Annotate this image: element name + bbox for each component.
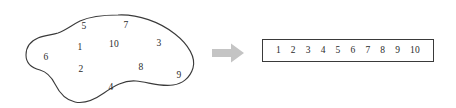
- sorting-figure: 5 7 1 10 3 6 2 8 9 4 1 2 3 4 5 6 7 8 9 1…: [0, 0, 456, 108]
- list-item: 9: [395, 46, 400, 56]
- blob-number: 6: [44, 53, 49, 63]
- blob-number: 10: [109, 40, 119, 50]
- right-arrow-path: [212, 44, 244, 63]
- blob-number: 7: [124, 21, 129, 31]
- blob-number: 4: [109, 83, 114, 93]
- blob-number: 5: [82, 22, 87, 32]
- blob-number: 9: [177, 71, 182, 81]
- transform-arrow: [211, 42, 245, 64]
- blob-number: 3: [157, 39, 162, 49]
- list-item: 4: [321, 46, 326, 56]
- list-item: 10: [410, 46, 420, 56]
- ordered-list-items: 1 2 3 4 5 6 7 8 9 10: [263, 40, 433, 61]
- unordered-set-blob: 5 7 1 10 3 6 2 8 9 4: [0, 0, 210, 108]
- list-item: 7: [365, 46, 370, 56]
- ordered-list-box: 1 2 3 4 5 6 7 8 9 10: [262, 39, 434, 62]
- list-item: 8: [380, 46, 385, 56]
- list-item: 5: [336, 46, 341, 56]
- right-arrow-icon: [211, 42, 245, 64]
- list-item: 6: [350, 46, 355, 56]
- list-item: 2: [291, 46, 296, 56]
- list-item: 3: [306, 46, 311, 56]
- blob-number: 8: [139, 63, 144, 73]
- blob-number: 1: [78, 43, 83, 53]
- blob-number: 2: [79, 65, 84, 75]
- list-item: 1: [276, 46, 281, 56]
- blob-outline-svg: [0, 0, 210, 108]
